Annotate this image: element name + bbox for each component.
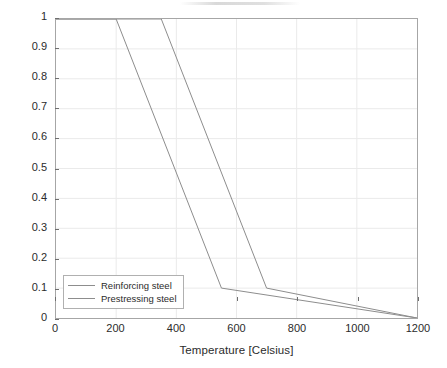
y-tick-mark bbox=[55, 199, 59, 200]
y-tick-label: 1 bbox=[0, 10, 47, 22]
y-tick-label: 0.3 bbox=[0, 221, 47, 233]
plot-area bbox=[55, 18, 418, 319]
legend-label-reinforcing-steel: Reinforcing steel bbox=[101, 279, 172, 292]
y-tick-label: 0 bbox=[0, 311, 47, 323]
y-tick-mark bbox=[55, 138, 59, 139]
y-tick-label: 0.5 bbox=[0, 161, 47, 173]
scan-artifact bbox=[180, 2, 300, 5]
x-tick-label: 400 bbox=[146, 322, 206, 334]
x-axis-title: Temperature [Celsius] bbox=[55, 344, 418, 356]
y-tick-mark bbox=[55, 48, 59, 49]
y-tick-label: 0.6 bbox=[0, 130, 47, 142]
legend-item-prestressing-steel[interactable]: Prestressing steel bbox=[68, 292, 177, 305]
y-tick-mark bbox=[55, 289, 59, 290]
legend[interactable]: Reinforcing steel Prestressing steel bbox=[63, 275, 184, 309]
legend-swatch-reinforcing-steel bbox=[68, 285, 95, 286]
x-tick-mark bbox=[358, 297, 359, 301]
x-tick-label: 1000 bbox=[328, 322, 388, 334]
figure-canvas: 020040060080010001200 00.10.20.30.40.50.… bbox=[0, 0, 447, 368]
x-tick-mark bbox=[418, 297, 419, 301]
x-tick-label: 0 bbox=[25, 322, 85, 334]
x-tick-mark bbox=[55, 297, 56, 301]
y-tick-label: 0.1 bbox=[0, 281, 47, 293]
y-tick-mark bbox=[55, 229, 59, 230]
y-tick-label: 0.2 bbox=[0, 251, 47, 263]
x-tick-label: 600 bbox=[207, 322, 267, 334]
y-tick-mark bbox=[55, 108, 59, 109]
y-tick-mark bbox=[55, 169, 59, 170]
y-tick-mark bbox=[55, 319, 59, 320]
legend-item-reinforcing-steel[interactable]: Reinforcing steel bbox=[68, 279, 177, 292]
y-tick-label: 0.9 bbox=[0, 40, 47, 52]
y-tick-mark bbox=[55, 259, 59, 260]
x-tick-label: 200 bbox=[86, 322, 146, 334]
y-tick-label: 0.4 bbox=[0, 191, 47, 203]
series-line-reinforcing-steel bbox=[56, 19, 417, 318]
legend-label-prestressing-steel: Prestressing steel bbox=[101, 292, 177, 305]
y-tick-mark bbox=[55, 78, 59, 79]
series-lines bbox=[56, 19, 417, 318]
y-tick-label: 0.7 bbox=[0, 100, 47, 112]
y-tick-label: 0.8 bbox=[0, 70, 47, 82]
series-line-prestressing-steel bbox=[56, 19, 417, 318]
x-tick-label: 1200 bbox=[388, 322, 447, 334]
y-tick-mark bbox=[55, 18, 59, 19]
x-tick-mark bbox=[297, 297, 298, 301]
x-tick-mark bbox=[237, 297, 238, 301]
legend-swatch-prestressing-steel bbox=[68, 298, 95, 299]
x-tick-label: 800 bbox=[267, 322, 327, 334]
